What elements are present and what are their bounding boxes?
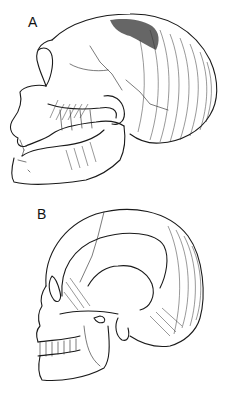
skull-panel-b: B	[0, 196, 228, 393]
skull-b-drawing	[0, 196, 228, 393]
skull-a-drawing	[0, 0, 228, 196]
skull-panel-a: A	[0, 0, 228, 196]
